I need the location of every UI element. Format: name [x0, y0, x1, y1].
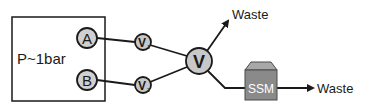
valve-v1-subscript: 1	[147, 44, 150, 50]
ssm-box-top	[245, 62, 277, 70]
valve-v2: V 2	[135, 77, 151, 93]
input-a-node: A	[77, 28, 97, 48]
input-b-label: B	[82, 72, 92, 89]
ssm-label: SSM	[248, 82, 274, 96]
valve-v1: V 1	[135, 34, 151, 50]
pressure-label: P~1bar	[17, 50, 66, 67]
line-v-ssm	[208, 71, 245, 88]
line-v2-v	[150, 67, 187, 82]
waste-right-label: Waste	[317, 81, 353, 96]
line-v1-v	[150, 45, 187, 56]
valve-v2-label: V	[138, 79, 146, 93]
arrow-v-waste-top	[207, 21, 228, 51]
input-a-label: A	[82, 30, 92, 47]
main-valve: V	[186, 48, 212, 74]
input-b-node: B	[77, 70, 97, 90]
valve-v2-subscript: 2	[147, 87, 150, 93]
waste-top-label: Waste	[232, 7, 268, 22]
main-valve-label: V	[193, 52, 205, 72]
flow-diagram: P~1bar A B V 1 V 2 V Waste SSM Waste	[0, 0, 369, 106]
ssm-box: SSM	[245, 62, 277, 100]
valve-v1-label: V	[138, 36, 146, 50]
